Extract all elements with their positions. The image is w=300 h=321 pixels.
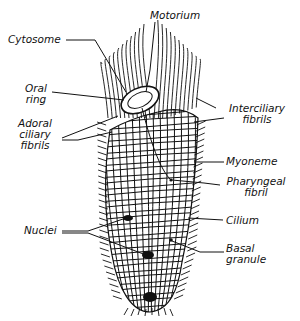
label-pharyngeal-fibril: Pharyngeal fibril (220, 176, 292, 198)
label-motorium: Motorium (150, 10, 200, 21)
label-text: Motorium (150, 9, 200, 21)
label-interciliary-fibrils: Interciliary fibrils (216, 103, 298, 125)
leader-lines (52, 22, 224, 255)
label-text: ring (20, 94, 52, 105)
label-text: fibrils (12, 140, 58, 151)
label-myoneme: Myoneme (226, 156, 278, 167)
label-text: Cytosome (8, 33, 61, 45)
label-nuclei: Nuclei (24, 225, 57, 236)
label-oral-ring: Oral ring (20, 83, 52, 105)
posterior-mass (143, 292, 157, 302)
ciliate-diagram: Motorium Cytosome Oral ring Adoral cilia… (0, 0, 300, 321)
label-text: granule (226, 254, 266, 265)
label-text: Myoneme (226, 155, 278, 167)
leader-motorium (146, 22, 155, 92)
label-cytosome: Cytosome (8, 34, 61, 45)
label-text: fibrils (216, 114, 298, 125)
label-text: Cilium (226, 214, 259, 226)
leader-interciliary-a (196, 98, 216, 108)
leader-oral-ring (52, 92, 124, 100)
label-text: Nuclei (24, 224, 57, 236)
nucleus-lower (142, 251, 154, 259)
label-cilium: Cilium (226, 215, 259, 226)
label-text: fibril (220, 187, 292, 198)
label-adoral-ciliary-fibrils: Adoral ciliary fibrils (12, 118, 58, 151)
leader-nuclei-b (62, 233, 146, 255)
label-basal-granule: Basal granule (226, 243, 266, 265)
